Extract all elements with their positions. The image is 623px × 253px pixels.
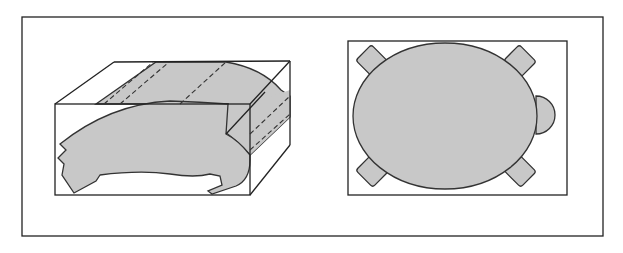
figure-canvas — [0, 0, 623, 253]
box-edge — [114, 61, 290, 62]
top-view — [348, 41, 567, 195]
oblique-view — [55, 61, 290, 195]
box-edge — [250, 145, 290, 195]
head — [536, 96, 555, 134]
shell — [353, 43, 537, 189]
turtle-body-front — [58, 101, 250, 194]
